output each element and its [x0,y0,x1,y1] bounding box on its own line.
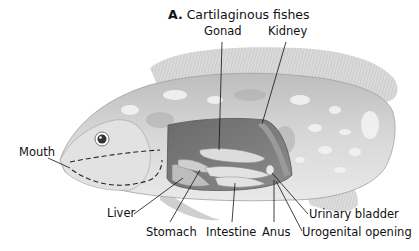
label-mouth: Mouth [19,147,55,159]
label-gonad: Gonad [204,26,242,38]
diagram: A. Cartilaginous fishes Gonad Kidney Mou… [0,0,419,251]
title-letter: A. [168,7,183,22]
label-kidney: Kidney [268,26,307,38]
label-urogenital-opening: Urogenital opening [302,227,412,239]
label-urinary-bladder: Urinary bladder [309,209,399,221]
label-liver: Liver [107,208,135,220]
label-intestine: Intestine [206,227,256,239]
label-anus: Anus [262,227,290,239]
title-text: Cartilaginous fishes [187,7,310,22]
diagram-title: A. Cartilaginous fishes [168,9,310,22]
label-stomach: Stomach [146,227,197,239]
fish-head [60,120,150,191]
